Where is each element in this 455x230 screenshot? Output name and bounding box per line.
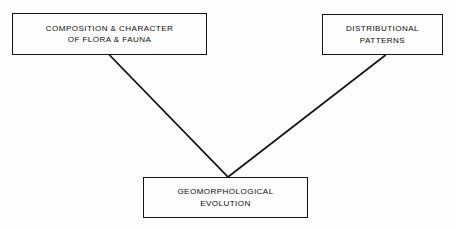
node-label-line: GEOMORPHOLOGICAL xyxy=(177,186,273,197)
node-distributional-patterns: DISTRIBUTIONAL PATTERNS xyxy=(322,14,443,55)
node-label-line: OF FLORA & FAUNA xyxy=(68,34,152,45)
node-label-line: EVOLUTION xyxy=(200,198,251,209)
node-label-line: COMPOSITION & CHARACTER xyxy=(46,23,173,34)
connector-patterns-to-evolution xyxy=(228,56,385,178)
node-geomorphological-evolution: GEOMORPHOLOGICAL EVOLUTION xyxy=(143,177,308,218)
connector-flora-fauna-to-evolution xyxy=(110,56,228,178)
diagram-canvas: COMPOSITION & CHARACTER OF FLORA & FAUNA… xyxy=(0,0,455,230)
node-composition-character-of-flora-fauna: COMPOSITION & CHARACTER OF FLORA & FAUNA xyxy=(12,13,207,55)
node-label-line: PATTERNS xyxy=(360,35,405,46)
node-label-line: DISTRIBUTIONAL xyxy=(346,23,419,34)
